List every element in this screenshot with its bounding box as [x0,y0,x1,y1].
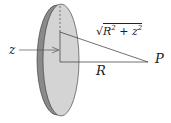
label-P: P [155,52,164,65]
label-R: R [96,64,106,77]
label-distance-formula: √R2 + z2 [96,25,142,37]
radicand: R2 + z2 [103,23,142,38]
disk-face [43,4,79,116]
label-z: z [9,44,15,56]
formula-plus: + [116,25,132,38]
radical-sign: √ [96,25,103,38]
formula-z-exponent: 2 [138,24,142,32]
disk-diagram [0,0,171,123]
